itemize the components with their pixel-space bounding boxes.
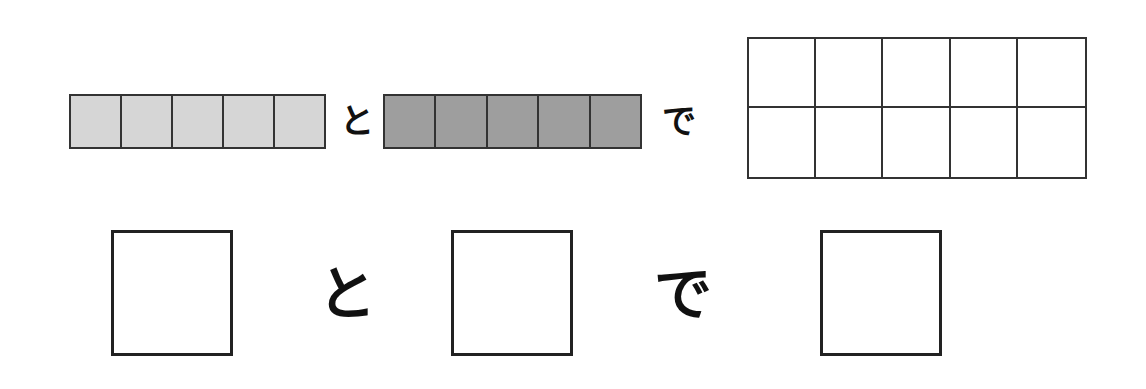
light-cell (173, 96, 224, 147)
dark-cell (488, 96, 539, 147)
light-cell (122, 96, 173, 147)
grid-cell (749, 108, 816, 177)
grid-cell (951, 39, 1018, 108)
light-gray-strip (69, 94, 326, 149)
dark-cell (539, 96, 590, 147)
answer-box-2[interactable] (451, 230, 573, 356)
grid-cell (816, 108, 883, 177)
grid-cell (749, 39, 816, 108)
connector-de-top: で (662, 104, 696, 138)
dark-cell (385, 96, 436, 147)
answer-box-3[interactable] (820, 230, 942, 356)
light-cell (275, 96, 324, 147)
answer-box-1[interactable] (111, 230, 233, 356)
grid-cell (1018, 108, 1085, 177)
dark-cell (436, 96, 487, 147)
light-cell (224, 96, 275, 147)
connector-to-top: と (340, 104, 374, 138)
grid-cell (1018, 39, 1085, 108)
grid-cell (816, 39, 883, 108)
grid-cell (883, 39, 950, 108)
dark-gray-strip (383, 94, 642, 149)
result-grid (747, 37, 1087, 179)
grid-cell (951, 108, 1018, 177)
connector-to-bottom: と (318, 265, 376, 323)
connector-de-bottom: で (654, 265, 712, 323)
light-cell (71, 96, 122, 147)
grid-cell (883, 108, 950, 177)
dark-cell (591, 96, 640, 147)
